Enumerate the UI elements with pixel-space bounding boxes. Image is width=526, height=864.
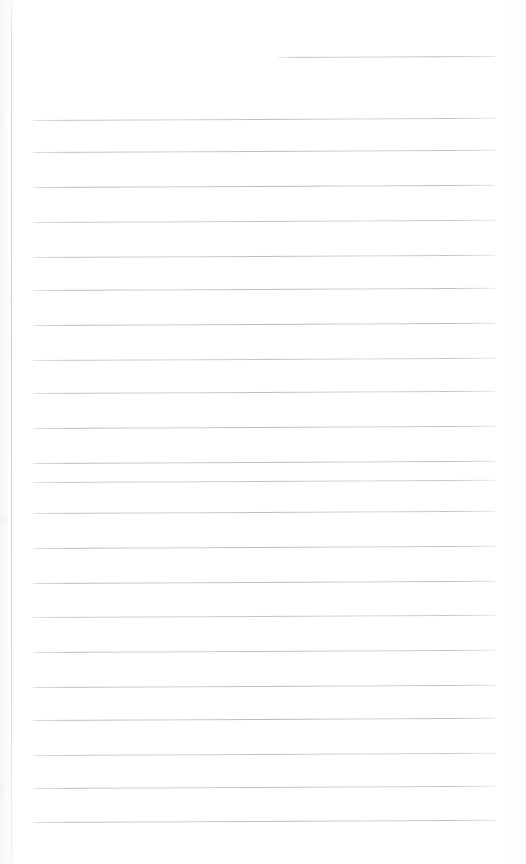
ruled-line — [33, 185, 495, 188]
ruled-line — [33, 255, 495, 258]
paper-grain-overlay — [0, 0, 526, 864]
ruled-line — [33, 753, 495, 756]
ruled-line — [33, 511, 495, 514]
ruled-line — [33, 323, 495, 326]
ruled-line-partial — [277, 56, 495, 58]
ruled-line — [33, 480, 495, 483]
scanned-page — [0, 0, 526, 864]
ruled-line — [33, 150, 495, 153]
ruled-line — [33, 220, 495, 223]
ruled-line — [33, 118, 495, 121]
ruled-line — [33, 615, 495, 618]
ruled-line — [33, 581, 495, 584]
ruled-line — [33, 426, 495, 429]
ruled-line — [33, 358, 495, 361]
ruled-line — [33, 718, 495, 721]
ruled-line — [33, 546, 495, 549]
ruled-line — [33, 391, 495, 394]
ruled-line — [33, 461, 495, 464]
ruled-line — [33, 685, 495, 688]
ruled-line — [33, 650, 495, 653]
paper-texture-overlay — [0, 0, 526, 864]
ruled-line — [33, 288, 495, 291]
ruled-line — [33, 820, 495, 823]
ruled-line — [33, 786, 495, 789]
left-margin-rule — [11, 0, 12, 864]
